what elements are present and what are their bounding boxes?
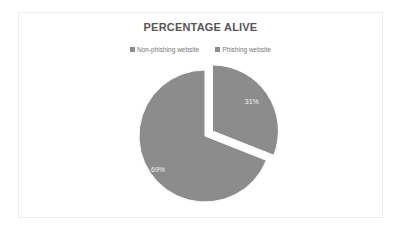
pie-slice-phishing xyxy=(212,65,278,155)
pie-chart: 31%69% xyxy=(0,0,405,229)
slice-label: 31% xyxy=(245,98,259,105)
slice-label: 69% xyxy=(151,166,165,173)
